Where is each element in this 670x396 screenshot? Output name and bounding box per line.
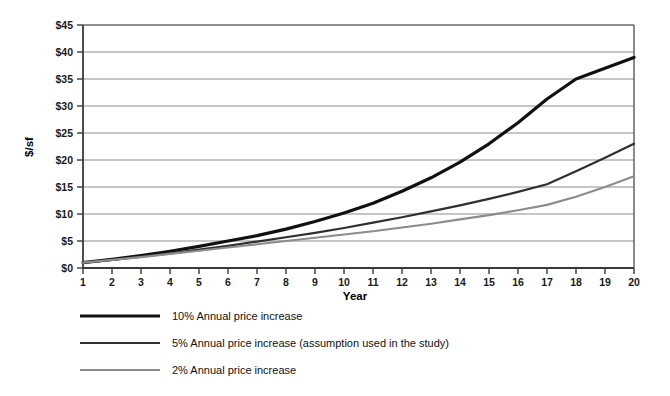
y-tick-label: $0: [61, 262, 73, 274]
x-tick-label: 5: [196, 276, 202, 288]
x-tick-label: 3: [138, 276, 144, 288]
x-tick-label: 19: [599, 276, 611, 288]
y-tick-label: $20: [55, 154, 73, 166]
x-tick-label: 7: [254, 276, 260, 288]
x-tick-label: 4: [167, 276, 173, 288]
x-tick-label: 1: [80, 276, 86, 288]
x-tick-label: 15: [483, 276, 495, 288]
y-tick-label: $15: [55, 181, 73, 193]
y-axis-title: $/sf: [23, 137, 35, 157]
x-axis-title: Year: [343, 290, 368, 302]
x-tick-label: 16: [512, 276, 524, 288]
price-increase-line-chart: $0$5$10$15$20$25$30$35$40$45 12345678910…: [0, 0, 670, 396]
x-tick-label: 17: [541, 276, 553, 288]
x-tick-label: 13: [425, 276, 437, 288]
y-tick-label: $5: [61, 235, 73, 247]
x-tick-label: 20: [628, 276, 640, 288]
y-tick-label: $30: [55, 100, 73, 112]
x-tick-label: 12: [396, 276, 408, 288]
y-tick-label: $40: [55, 46, 73, 58]
x-tick-label: 6: [225, 276, 231, 288]
x-tick-label: 14: [454, 276, 466, 288]
y-tick-label: $45: [55, 19, 73, 31]
x-tick-label: 9: [312, 276, 318, 288]
x-tick-label: 2: [109, 276, 115, 288]
legend-label: 2% Annual price increase: [172, 364, 296, 376]
y-tick-label: $10: [55, 208, 73, 220]
y-tick-label: $25: [55, 127, 73, 139]
x-tick-label: 8: [283, 276, 289, 288]
x-tick-label: 10: [338, 276, 350, 288]
legend-label: 10% Annual price increase: [172, 310, 302, 322]
legend-label: 5% Annual price increase (assumption use…: [172, 337, 449, 349]
x-tick-label: 18: [570, 276, 582, 288]
y-tick-label: $35: [55, 73, 73, 85]
chart-figure: $0$5$10$15$20$25$30$35$40$45 12345678910…: [0, 0, 670, 396]
x-tick-label: 11: [367, 276, 378, 288]
